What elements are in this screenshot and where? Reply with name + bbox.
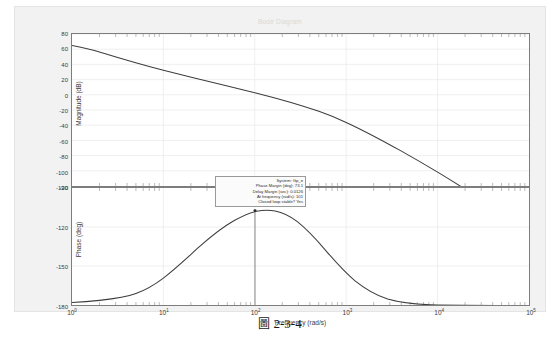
pha-ytick-m120: -120 — [56, 225, 68, 231]
magnitude-plot-svg — [72, 34, 529, 186]
datatip-line-stability: Closed loop stable? Yes — [218, 199, 303, 204]
mag-ytick-m100: -100 — [56, 170, 68, 176]
figure-caption: 圖 2-3-4 — [0, 314, 560, 332]
mag-ytick-80: 80 — [61, 31, 68, 37]
mag-ytick-60: 60 — [61, 46, 68, 52]
mag-ytick-20: 20 — [61, 77, 68, 83]
phase-axes: -90 -120 -150 -180 Phase (deg) 100 101 1… — [71, 187, 530, 306]
magnitude-axis-label: Magnitude (dB) — [75, 72, 82, 136]
magnitude-curve — [72, 45, 482, 186]
magnitude-axes: 80 60 40 20 0 -20 -40 -60 -80 -100 -120 … — [71, 33, 530, 187]
mag-ytick-40: 40 — [61, 62, 68, 68]
bode-figure: Bode Diagram — [14, 6, 546, 312]
datatip-box[interactable]: System: Gp_e Phase Margin (deg): 73.1 De… — [215, 176, 306, 207]
phase-axis-label: Phase (deg) — [75, 210, 82, 270]
magnitude-horizontal-gridlines — [72, 34, 529, 171]
phase-horizontal-gridlines — [72, 227, 529, 266]
mag-ytick-m40: -40 — [59, 123, 68, 129]
phase-curve — [72, 210, 529, 305]
mag-ytick-m80: -80 — [59, 154, 68, 160]
pha-ytick-m150: -150 — [56, 264, 68, 270]
mag-ytick-m60: -60 — [59, 139, 68, 145]
caption-glyph: 圖 — [258, 317, 270, 331]
datatip-marker — [254, 209, 257, 212]
mag-ytick-0: 0 — [65, 93, 68, 99]
caption-number: 2-3-4 — [274, 316, 302, 331]
mag-ytick-m20: -20 — [59, 108, 68, 114]
figure-title: Bode Diagram — [15, 18, 545, 25]
pha-ytick-m90: -90 — [59, 185, 68, 191]
